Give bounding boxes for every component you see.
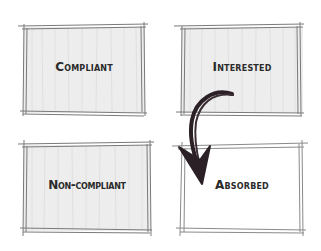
curved-arrow-icon: [0, 0, 321, 251]
